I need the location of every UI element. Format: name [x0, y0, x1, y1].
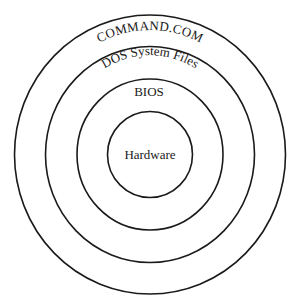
bios-label: BIOS: [134, 84, 164, 99]
command-com-label: COMMAND.COM: [94, 18, 206, 46]
hardware-label: Hardware: [124, 147, 175, 162]
dos-system-files-label: DOS System Files: [98, 43, 201, 71]
dos-layers-diagram: COMMAND.COM DOS System Files BIOS Hardwa…: [0, 0, 297, 307]
